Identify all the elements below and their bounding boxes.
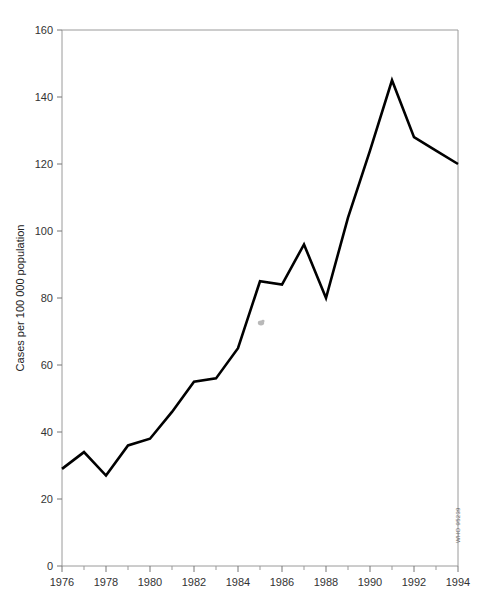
y-axis-title: Cases per 100 000 population xyxy=(14,225,26,372)
x-tick-label: 1986 xyxy=(270,576,294,588)
plot-frame xyxy=(62,30,458,566)
x-tick-label: 1990 xyxy=(358,576,382,588)
x-tick-label: 1982 xyxy=(182,576,206,588)
x-tick-label: 1994 xyxy=(446,576,470,588)
x-tick-label: 1978 xyxy=(94,576,118,588)
y-label-group: 020406080100120140160 xyxy=(35,24,53,572)
y-tick-label: 100 xyxy=(35,225,53,237)
scan-artifact-speck xyxy=(258,320,265,326)
y-tick-label: 20 xyxy=(41,493,53,505)
y-tick-label: 80 xyxy=(41,292,53,304)
y-tick-label: 40 xyxy=(41,426,53,438)
y-tick-label: 140 xyxy=(35,91,53,103)
x-tick-label: 1976 xyxy=(50,576,74,588)
y-tick-label: 160 xyxy=(35,24,53,36)
data-series-group xyxy=(62,80,458,475)
data-line-cases xyxy=(62,80,458,475)
x-axis: 1976197819801982198419861988199019921994 xyxy=(50,566,470,588)
x-tick-label: 1988 xyxy=(314,576,338,588)
x-tick-group xyxy=(62,566,458,572)
x-tick-label: 1984 xyxy=(226,576,250,588)
x-tick-label: 1992 xyxy=(402,576,426,588)
line-chart: 020406080100120140160 Cases per 100 000 … xyxy=(0,0,485,607)
chart-figure: 020406080100120140160 Cases per 100 000 … xyxy=(0,0,485,607)
x-label-group: 1976197819801982198419861988199019921994 xyxy=(50,576,470,588)
y-tick-label: 60 xyxy=(41,359,53,371)
y-tick-label: 120 xyxy=(35,158,53,170)
y-tick-label: 0 xyxy=(47,560,53,572)
y-axis: 020406080100120140160 Cases per 100 000 … xyxy=(14,24,62,572)
y-tick-group xyxy=(57,30,62,566)
x-tick-label: 1980 xyxy=(138,576,162,588)
source-code-label: WHO 95239 xyxy=(455,507,461,543)
